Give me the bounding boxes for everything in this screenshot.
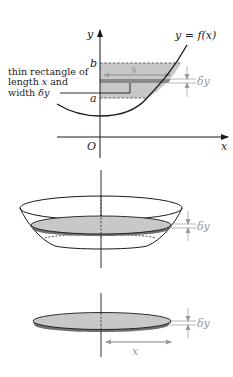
disc	[33, 313, 171, 330]
annotation-line-3: width δy	[8, 87, 50, 98]
bowl-view: δy	[20, 170, 211, 268]
top-graph: x δy y x O y = f(x) b a thin rectangle o…	[8, 28, 228, 158]
x-axis-label: x	[221, 140, 228, 153]
annotation-line-2: length x and	[8, 76, 68, 87]
disc-view: δy x	[33, 293, 211, 358]
lower-bound-label: a	[90, 92, 97, 105]
disc-radius-label: x	[132, 345, 139, 358]
curve-label: y = f(x)	[174, 29, 216, 42]
y-axis-label: y	[86, 28, 94, 41]
strip-length-label: x	[131, 63, 138, 76]
volume-of-revolution-diagram: x δy y x O y = f(x) b a thin rectangle o…	[0, 0, 233, 377]
upper-bound-label: b	[90, 57, 97, 70]
bowl-thickness-label: δy	[197, 220, 211, 233]
strip-width-label: δy	[197, 75, 211, 88]
disc-thickness-label: δy	[197, 317, 211, 330]
origin-label: O	[87, 140, 96, 153]
